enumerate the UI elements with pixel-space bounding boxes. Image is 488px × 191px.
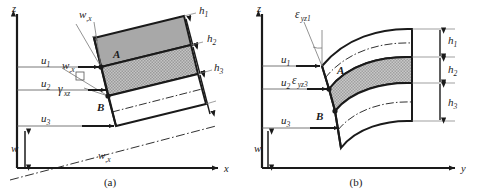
panel-a-wx-top-label: w,x [79, 8, 92, 23]
panel-b-h2-label: h2 [448, 63, 458, 78]
figure-svg: z x u1 u2 u3 w w,x w,x w,x γxz A B h1 h2… [0, 0, 488, 191]
panel-a-h-ext-1 [184, 13, 196, 16]
panel-a-u2-label: u2 [41, 77, 51, 92]
panel-b-point-a-marker [326, 86, 331, 91]
panel-b-eps1-label: εyz1 [295, 8, 311, 23]
panel-a-wx-bottom-label: w,x [98, 149, 111, 164]
panel-b-caption: (b) [350, 176, 363, 189]
panel-a-w-label: w [11, 142, 19, 154]
panel-a-point-a-marker [98, 64, 103, 69]
panel-b-point-b-label: B [315, 110, 323, 122]
panel-a-h2-label: h2 [207, 32, 217, 47]
panel-b-point-a-label: A [336, 64, 344, 76]
panel-b-w-label: w [254, 142, 262, 154]
panel-a-point-b-label: B [96, 101, 104, 113]
panel-b-eps3-label: εyz3 [292, 74, 308, 89]
panel-b-u2-label: u2 [281, 76, 291, 91]
panel-b-h3-label: h3 [448, 96, 458, 111]
panel-a-h1-label: h1 [199, 4, 208, 19]
panel-b-strain-leader-top [304, 22, 322, 66]
panel-b-u1-label: u1 [281, 53, 290, 68]
panel-b-h1-label: h1 [448, 34, 457, 49]
panel-a-gamma-label: γxz [58, 83, 70, 98]
panel-a-point-b-marker [105, 93, 110, 98]
panel-a: z x u1 u2 u3 w w,x w,x w,x γxz A B h1 h2… [10, 3, 229, 189]
panel-a-u1-label: u1 [41, 54, 50, 69]
panel-a-wx-mid-label: w,x [62, 59, 75, 74]
panel-a-x-axis-label: x [223, 163, 229, 174]
panel-a-u3-label: u3 [41, 112, 51, 127]
panel-b-z-axis-label: z [256, 3, 261, 14]
panel-b-y-axis-label: y [460, 163, 466, 174]
panel-a-h3-label: h3 [214, 61, 224, 76]
panel-a-z-axis-label: z [11, 3, 16, 14]
panel-a-caption: (a) [104, 176, 117, 189]
panel-a-point-a-label: A [112, 48, 120, 60]
panel-b: z y u1 u2 u3 w εyz1 εyz3 A B h1 h2 h3 (b… [254, 3, 466, 189]
panel-a-reference-midplane [10, 126, 216, 180]
panel-b-point-b-marker [332, 108, 337, 113]
figure-root: z x u1 u2 u3 w w,x w,x w,x γxz A B h1 h2… [0, 0, 488, 191]
panel-b-u3-label: u3 [281, 114, 291, 129]
